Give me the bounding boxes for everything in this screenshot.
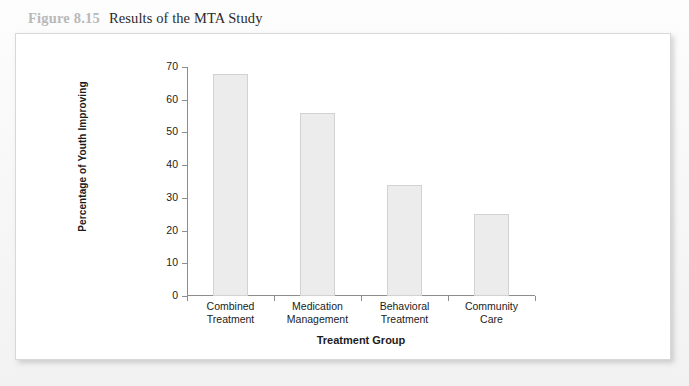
- category-label-line: Care: [448, 313, 535, 326]
- y-axis-line: [187, 67, 188, 296]
- y-tick: 40: [182, 165, 187, 166]
- figure-caption: Figure 8.15 Results of the MTA Study: [28, 10, 263, 30]
- bar: [387, 185, 422, 296]
- y-tick-label: 20: [166, 224, 178, 236]
- bar: [213, 74, 248, 296]
- category-label-line: Combined: [187, 300, 274, 313]
- category-label-line: Treatment: [361, 313, 448, 326]
- category-label: CommunityCare: [448, 300, 535, 326]
- y-tick-label: 70: [166, 60, 178, 72]
- y-axis-label: Percentage of Youth Improving: [77, 52, 88, 262]
- y-tick-label: 0: [172, 289, 178, 301]
- category-label-line: Behavioral: [361, 300, 448, 313]
- y-tick: 60: [182, 100, 187, 101]
- category-label-line: Medication: [274, 300, 361, 313]
- bar: [300, 113, 335, 296]
- y-tick: 20: [182, 231, 187, 232]
- y-tick-label: 10: [166, 256, 178, 268]
- y-tick: 10: [182, 263, 187, 264]
- x-axis-label: Treatment Group: [187, 334, 535, 346]
- y-tick-label: 50: [166, 125, 178, 137]
- category-label: BehavioralTreatment: [361, 300, 448, 326]
- plot-area: 010203040506070: [187, 67, 535, 296]
- bar-chart: Percentage of Youth Improving 0102030405…: [16, 34, 672, 361]
- category-label-line: Management: [274, 313, 361, 326]
- figure-number: Figure 8.15: [28, 10, 100, 27]
- y-tick: 70: [182, 67, 187, 68]
- category-label-line: Community: [448, 300, 535, 313]
- category-label: CombinedTreatment: [187, 300, 274, 326]
- x-tick: [535, 296, 536, 301]
- bar: [474, 214, 509, 296]
- y-tick-label: 40: [166, 158, 178, 170]
- y-tick-label: 30: [166, 191, 178, 203]
- category-label-line: Treatment: [187, 313, 274, 326]
- figure-title: Results of the MTA Study: [109, 10, 263, 27]
- y-tick: 50: [182, 132, 187, 133]
- y-tick: 30: [182, 198, 187, 199]
- category-label: MedicationManagement: [274, 300, 361, 326]
- y-tick-label: 60: [166, 93, 178, 105]
- figure-frame: Percentage of Youth Improving 0102030405…: [15, 33, 671, 360]
